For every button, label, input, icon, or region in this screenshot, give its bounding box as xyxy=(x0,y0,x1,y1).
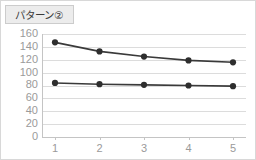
y-axis-tick-label: 140 xyxy=(20,40,38,52)
y-axis-tick-label: 20 xyxy=(26,117,38,129)
y-axis-tick-label: 160 xyxy=(20,27,38,39)
y-axis-tick-label: 60 xyxy=(26,91,38,103)
data-point-series-upper-1 xyxy=(52,39,58,45)
data-point-series-upper-3 xyxy=(141,53,147,59)
chart-plot-area: 02040608010012014016012345 xyxy=(1,1,256,160)
chart-screenshot: パターン② 02040608010012014016012345 xyxy=(0,0,256,160)
y-axis-tick-label: 0 xyxy=(32,130,38,142)
y-axis-tick-label: 100 xyxy=(20,66,38,78)
x-axis-tick-label: 5 xyxy=(230,142,236,154)
y-axis-tick-label: 80 xyxy=(26,78,38,90)
data-point-series-lower-4 xyxy=(185,82,191,88)
x-axis-tick-label: 1 xyxy=(52,142,58,154)
line-chart-svg: 02040608010012014016012345 xyxy=(1,1,256,160)
y-axis-tick-label: 40 xyxy=(26,104,38,116)
data-point-series-upper-4 xyxy=(185,57,191,63)
data-point-series-lower-1 xyxy=(52,80,58,86)
x-axis-tick-label: 2 xyxy=(96,142,102,154)
data-point-series-upper-5 xyxy=(230,59,236,65)
data-point-series-lower-2 xyxy=(96,81,102,87)
x-axis-tick-label: 4 xyxy=(185,142,191,154)
data-point-series-lower-3 xyxy=(141,82,147,88)
y-axis-tick-label: 120 xyxy=(20,53,38,65)
x-axis-tick-label: 3 xyxy=(141,142,147,154)
data-point-series-lower-5 xyxy=(230,83,236,89)
data-point-series-upper-2 xyxy=(96,48,102,54)
